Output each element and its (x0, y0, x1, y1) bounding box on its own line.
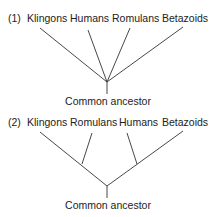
tree-2-taxon-humans: Humans (119, 117, 158, 128)
tree-2-number: (2) (8, 117, 21, 128)
branch-romulans-2 (82, 133, 92, 164)
tree-1-taxon-romulans: Romulans (112, 13, 159, 24)
tree-1-root-label: Common ancestor (65, 96, 151, 107)
phylogenetic-trees (0, 0, 216, 217)
tree-2-taxon-romulans: Romulans (70, 117, 117, 128)
tree-1-taxon-humans: Humans (70, 13, 109, 24)
tree-2-root-label: Common ancestor (65, 200, 151, 211)
tree-1-taxon-betazoids: Betazoids (162, 13, 208, 24)
tree-1-number: (1) (8, 13, 21, 24)
tree-2-branches (40, 131, 183, 198)
tree-2-taxon-klingons: Klingons (27, 117, 67, 128)
tree-1-branches (40, 27, 183, 94)
tree-1-taxon-klingons: Klingons (27, 13, 67, 24)
branch-klingons-2 (40, 132, 107, 186)
branch-humans-2 (127, 133, 137, 164)
branch-betazoids-2 (107, 131, 183, 186)
tree-2-taxon-betazoids: Betazoids (162, 117, 208, 128)
